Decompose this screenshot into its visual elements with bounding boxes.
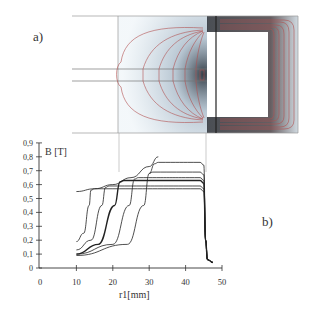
panel-a-diagram: a) bbox=[33, 16, 298, 172]
y-tick-label: 0 bbox=[29, 264, 33, 273]
y-tick-label: 0,7 bbox=[23, 167, 33, 176]
series-line bbox=[76, 186, 213, 262]
y-tick-label: 0,5 bbox=[23, 195, 33, 204]
series-line bbox=[76, 189, 213, 263]
y-axis-label: B [T] bbox=[45, 146, 67, 157]
y-tick-label: 0,6 bbox=[23, 181, 33, 190]
panel-b-chart: b) 00,10,20,30,40,50,60,70,80,9 01020304… bbox=[23, 139, 273, 300]
x-tick-label: 10 bbox=[72, 277, 81, 287]
y-tick-label: 0,9 bbox=[23, 139, 33, 148]
x-tick-label: 50 bbox=[218, 277, 227, 287]
x-tick-label: 20 bbox=[109, 277, 118, 287]
panel-b-label: b) bbox=[262, 214, 273, 229]
x-tick-label: 0 bbox=[38, 277, 42, 287]
figure: a) bbox=[0, 0, 314, 317]
y-tick-label: 0,3 bbox=[23, 222, 33, 231]
y-tick-label: 0,4 bbox=[23, 208, 33, 217]
x-axis-label: r1[mm] bbox=[119, 289, 150, 300]
x-tick-label: 40 bbox=[181, 277, 190, 287]
y-tick-label: 0,2 bbox=[23, 236, 33, 245]
x-tick-label: 30 bbox=[145, 277, 154, 287]
field-shading bbox=[118, 16, 208, 133]
y-tick-label: 0,8 bbox=[23, 153, 33, 162]
y-tick-label: 0,1 bbox=[23, 250, 33, 259]
data-series bbox=[76, 157, 213, 263]
panel-a-label: a) bbox=[33, 29, 43, 44]
